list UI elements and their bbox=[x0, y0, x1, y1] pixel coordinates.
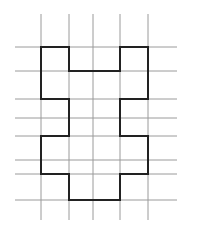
shape-outline bbox=[41, 47, 148, 200]
grid-lines bbox=[15, 14, 177, 220]
grid-diagram bbox=[0, 0, 206, 234]
